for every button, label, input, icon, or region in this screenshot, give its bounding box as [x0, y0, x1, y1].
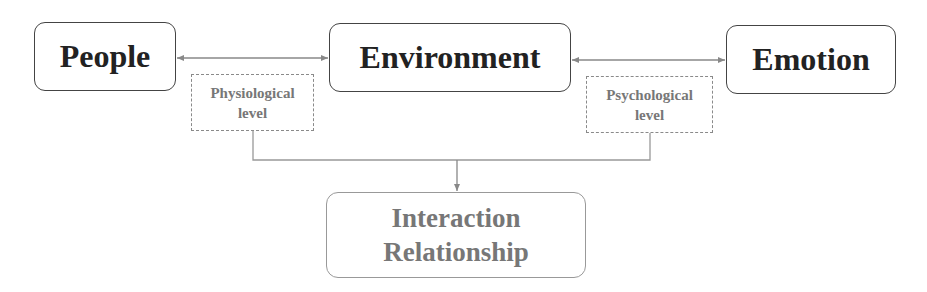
interaction-relationship-node: Interaction Relationship [326, 192, 586, 278]
physiological-line2: level [238, 103, 267, 123]
environment-label: Environment [360, 39, 541, 76]
emotion-node: Emotion [726, 25, 896, 94]
emotion-label: Emotion [752, 41, 869, 78]
psychological-line1: Psychological [606, 85, 693, 105]
interaction-line2: Relationship [383, 235, 529, 269]
physiological-line1: Physiological [210, 83, 294, 103]
psychological-line2: level [635, 105, 664, 125]
people-node: People [34, 22, 176, 91]
physiological-level-node: Physiological level [191, 74, 314, 131]
people-label: People [60, 38, 151, 75]
psychological-level-node: Psychological level [586, 76, 713, 133]
merge-connector [253, 131, 650, 160]
interaction-line1: Interaction [392, 201, 521, 235]
environment-node: Environment [329, 23, 571, 92]
